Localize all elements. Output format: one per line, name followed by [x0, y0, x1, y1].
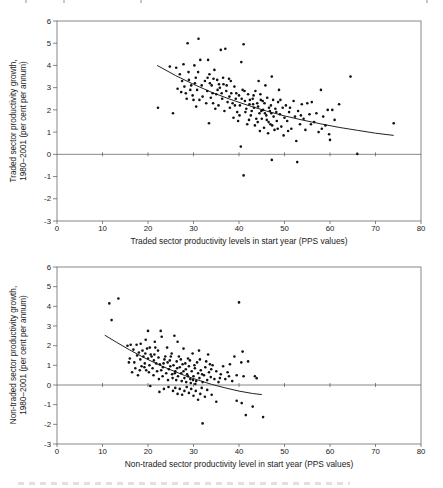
svg-text:3: 3 [47, 322, 51, 331]
svg-text:2: 2 [47, 341, 51, 350]
non-traded-y-axis-title-line1: Non-traded sector productivity growth, [9, 250, 19, 460]
svg-text:60: 60 [326, 447, 335, 456]
non-traded-sector-chart: 6543210-1-2-301020304050607080 Non-trade… [0, 244, 443, 488]
cropped-caption-artifact-bottom [18, 482, 350, 485]
non-traded-y-axis-title-line2: 1980–2001 (per cent per annum) [19, 250, 29, 460]
figure-page: 6543210-1-2-301020304050607080 Traded se… [0, 0, 443, 488]
svg-text:0: 0 [55, 447, 60, 456]
traded-y-axis-title-line1: Traded sector productivity growth, [9, 16, 19, 226]
svg-text:20: 20 [144, 447, 153, 456]
svg-text:10: 10 [98, 447, 107, 456]
non-traded-x-axis-title: Non-traded sector productivity level in … [57, 459, 421, 469]
svg-text:-1: -1 [44, 172, 51, 181]
svg-text:5: 5 [47, 282, 52, 291]
svg-text:1: 1 [47, 128, 51, 137]
svg-text:-2: -2 [44, 420, 51, 429]
svg-text:2: 2 [47, 106, 51, 115]
svg-text:1: 1 [47, 361, 51, 370]
svg-text:70: 70 [371, 224, 380, 233]
non-traded-sector-chart-canvas: 6543210-1-2-301020304050607080 [0, 244, 443, 488]
svg-text:5: 5 [47, 39, 52, 48]
svg-text:80: 80 [417, 224, 426, 233]
traded-y-axis-title-line2: 1980–2001 (per cent per annum) [19, 16, 29, 226]
traded-sector-chart: 6543210-1-2-301020304050607080 Traded se… [0, 0, 443, 244]
svg-text:6: 6 [47, 17, 51, 26]
traded-sector-chart-canvas: 6543210-1-2-301020304050607080 [0, 0, 443, 244]
svg-text:30: 30 [189, 447, 198, 456]
svg-text:40: 40 [235, 447, 244, 456]
svg-text:80: 80 [417, 447, 426, 456]
svg-text:60: 60 [326, 224, 335, 233]
svg-text:10: 10 [98, 224, 107, 233]
svg-text:3: 3 [47, 83, 51, 92]
svg-text:6: 6 [47, 263, 51, 272]
svg-text:30: 30 [189, 224, 198, 233]
svg-text:-3: -3 [44, 440, 51, 449]
svg-text:40: 40 [235, 224, 244, 233]
svg-text:0: 0 [47, 150, 52, 159]
svg-text:4: 4 [47, 302, 52, 311]
svg-text:20: 20 [144, 224, 153, 233]
svg-text:4: 4 [47, 61, 52, 70]
svg-text:-1: -1 [44, 400, 51, 409]
svg-text:0: 0 [47, 381, 52, 390]
svg-text:50: 50 [280, 447, 289, 456]
svg-text:50: 50 [280, 224, 289, 233]
svg-text:0: 0 [55, 224, 60, 233]
svg-text:70: 70 [371, 447, 380, 456]
svg-text:-2: -2 [44, 194, 51, 203]
svg-text:-3: -3 [44, 217, 51, 226]
